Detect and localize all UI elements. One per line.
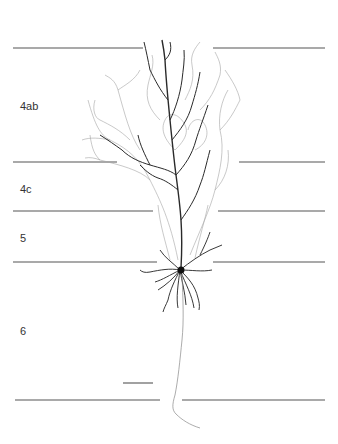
layer-label: 6 <box>20 325 26 337</box>
soma <box>178 267 185 274</box>
apical-tuft-light <box>82 42 240 260</box>
layer-label: 4ab <box>20 100 38 112</box>
apical-dendrite-dark <box>100 40 210 268</box>
neuron-diagram <box>0 0 338 444</box>
layer-label: 5 <box>20 232 26 244</box>
layer-label: 4c <box>20 183 32 195</box>
